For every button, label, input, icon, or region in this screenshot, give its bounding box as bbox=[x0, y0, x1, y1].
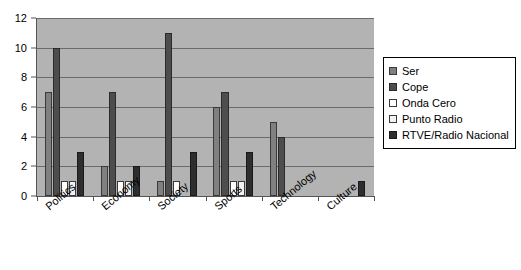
y-axis: 024681012 bbox=[0, 0, 30, 210]
x-tick-mark bbox=[206, 196, 207, 201]
y-tick-mark bbox=[31, 18, 36, 19]
bar bbox=[165, 33, 172, 196]
bar bbox=[101, 166, 108, 196]
bar bbox=[157, 181, 164, 196]
legend: SerCopeOnda CeroPunto RadioRTVE/Radio Na… bbox=[383, 57, 516, 149]
legend-item: Punto Radio bbox=[389, 111, 509, 127]
bar-group bbox=[93, 18, 149, 196]
bar bbox=[190, 152, 197, 197]
y-tick-mark bbox=[31, 196, 36, 197]
legend-label: Onda Cero bbox=[402, 98, 456, 109]
y-tick-mark bbox=[31, 47, 36, 48]
y-tick-mark bbox=[31, 136, 36, 137]
y-tick-label: 0 bbox=[21, 191, 27, 202]
y-tick-label: 8 bbox=[21, 72, 27, 83]
bar bbox=[358, 181, 365, 196]
legend-label: Punto Radio bbox=[402, 114, 463, 125]
y-tick-mark bbox=[31, 77, 36, 78]
bar bbox=[221, 92, 228, 196]
x-tick-mark bbox=[37, 196, 38, 201]
bar bbox=[77, 152, 84, 197]
bar bbox=[109, 92, 116, 196]
x-tick-mark bbox=[374, 196, 375, 201]
bar-chart: 024681012 SerCopeOnda CeroPunto RadioRTV… bbox=[0, 0, 521, 270]
y-tick-mark bbox=[31, 107, 36, 108]
y-tick-label: 10 bbox=[15, 42, 27, 53]
x-tick-mark bbox=[149, 196, 150, 201]
bar-group bbox=[318, 18, 374, 196]
x-tick-mark bbox=[318, 196, 319, 201]
y-tick-label: 4 bbox=[21, 131, 27, 142]
bar-group bbox=[37, 18, 93, 196]
y-tick-label: 6 bbox=[21, 102, 27, 113]
y-tick-label: 12 bbox=[15, 13, 27, 24]
legend-swatch-icon bbox=[389, 115, 397, 123]
x-tick-mark bbox=[262, 196, 263, 201]
x-tick-mark bbox=[93, 196, 94, 201]
legend-label: Cope bbox=[402, 82, 428, 93]
bar bbox=[213, 107, 220, 196]
bar-group bbox=[206, 18, 262, 196]
legend-swatch-icon bbox=[389, 99, 397, 107]
legend-swatch-icon bbox=[389, 67, 397, 75]
bar bbox=[45, 92, 52, 196]
legend-item: Cope bbox=[389, 79, 509, 95]
legend-label: Ser bbox=[402, 66, 419, 77]
y-tick-mark bbox=[31, 166, 36, 167]
legend-item: Onda Cero bbox=[389, 95, 509, 111]
legend-swatch-icon bbox=[389, 131, 397, 139]
bar bbox=[270, 122, 277, 196]
bar-group bbox=[149, 18, 205, 196]
legend-item: Ser bbox=[389, 63, 509, 79]
y-tick-label: 2 bbox=[21, 161, 27, 172]
legend-label: RTVE/Radio Nacional bbox=[402, 130, 509, 141]
plot-area bbox=[37, 18, 374, 196]
legend-item: RTVE/Radio Nacional bbox=[389, 127, 509, 143]
bar bbox=[246, 152, 253, 197]
bar bbox=[278, 137, 285, 196]
legend-swatch-icon bbox=[389, 83, 397, 91]
bar bbox=[53, 48, 60, 196]
